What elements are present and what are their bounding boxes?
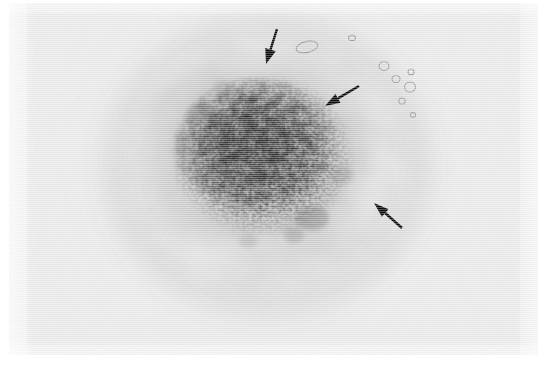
- micrograph-figure: [9, 3, 538, 355]
- film-grain-layer: [9, 3, 538, 355]
- figure-page: [0, 0, 548, 367]
- micrograph-image: [9, 3, 538, 355]
